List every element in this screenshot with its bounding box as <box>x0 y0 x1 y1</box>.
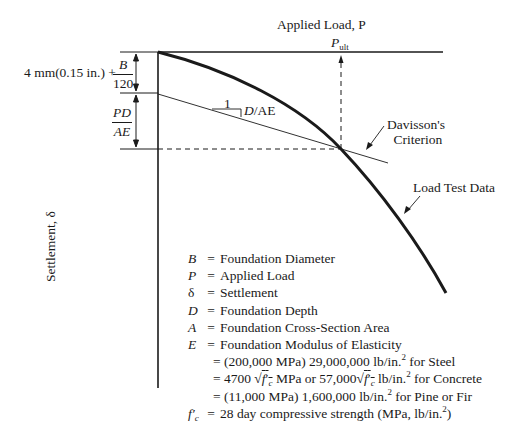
legend-eq: = <box>202 302 220 319</box>
legend-symbol: P <box>188 267 202 284</box>
modulus-concrete-unit: lb/in. <box>375 371 407 386</box>
slope-rise-text: 1 <box>224 96 231 111</box>
legend-symbol: δ <box>188 284 202 301</box>
legend-text: Settlement <box>220 285 278 300</box>
fc-definition: f′c=28 day compressive strength (MPa, lb… <box>188 405 482 422</box>
legend-row-a: A=Foundation Cross-Section Area <box>188 319 482 336</box>
modulus-steel: = (200,000 MPa) 29,000,000 lb/in.2 for S… <box>188 353 482 370</box>
modulus-steel-suffix: for Steel <box>406 354 456 369</box>
fc-symbol: f′c <box>364 371 375 386</box>
modulus-pine-text: = (11,000 MPa) 1,600,000 lb/in. <box>213 389 387 404</box>
legend-symbol: D <box>188 302 202 319</box>
legend-row-d: D=Foundation Depth <box>188 302 482 319</box>
fc-symbol: f′c <box>188 405 202 422</box>
modulus-concrete-text: = 4700 √ <box>213 371 262 386</box>
davisson-label-line1: Davisson's <box>387 117 445 132</box>
p-ult-subscript: ult <box>339 42 349 52</box>
legend-eq: = <box>202 267 220 284</box>
offset-fraction: B 120 <box>113 58 133 90</box>
p-ult-symbol: P <box>331 35 339 50</box>
modulus-concrete-suffix: for Concrete <box>411 371 482 386</box>
legend-row-p: P=Applied Load <box>188 267 482 284</box>
slope-run-rest: /AE <box>254 103 276 118</box>
legend-symbol: E <box>188 336 202 353</box>
fc-definition-close: ) <box>447 406 452 421</box>
offset-label-text: 4 mm(0.15 in.) + <box>24 65 116 80</box>
fc-sub: c <box>195 413 199 423</box>
y-axis-label-text: Settlement, δ <box>43 211 58 282</box>
legend-row-b: B=Foundation Diameter <box>188 250 482 267</box>
legend-symbol: A <box>188 319 202 336</box>
legend-symbol: B <box>188 250 202 267</box>
x-axis-label-text: Applied Load, P <box>277 17 366 32</box>
elastic-fraction: PD AE <box>112 106 132 138</box>
offset-fraction-denominator: 120 <box>113 75 133 91</box>
fc-symbol: f′c <box>262 371 273 386</box>
modulus-concrete-mid: MPa or 57,000√ <box>273 371 364 386</box>
legend-text: Foundation Diameter <box>220 251 335 266</box>
legend-text: Foundation Cross-Section Area <box>220 320 389 335</box>
legend-eq: = <box>202 336 220 353</box>
davisson-label-line2: Criterion <box>390 132 443 147</box>
davisson-label: Davisson's Criterion <box>387 117 445 147</box>
modulus-concrete: = 4700 √f′c MPa or 57,000√f′c lb/in.2 fo… <box>188 370 482 387</box>
dimension-arrows <box>134 54 139 147</box>
offset-fraction-numerator: B <box>113 58 133 75</box>
y-axis-label: Settlement, δ <box>43 211 59 282</box>
legend-eq: = <box>202 405 220 422</box>
legend-text: Foundation Depth <box>220 303 318 318</box>
legend-eq: = <box>202 250 220 267</box>
load-test-label: Load Test Data <box>413 181 495 195</box>
legend: B=Foundation Diameter P=Applied Load δ=S… <box>188 250 482 422</box>
legend-eq: = <box>202 284 220 301</box>
elastic-fraction-denominator: AE <box>112 123 132 139</box>
elastic-fraction-numerator: PD <box>112 106 132 123</box>
legend-row-delta: δ=Settlement <box>188 284 482 301</box>
modulus-steel-text: = (200,000 MPa) 29,000,000 lb/in. <box>213 354 401 369</box>
fc-definition-text: 28 day compressive strength (MPa, lb/in. <box>220 406 442 421</box>
slope-rise-label: 1 <box>224 97 231 111</box>
slope-run-label: D/AE <box>244 104 276 118</box>
modulus-pine: = (11,000 MPa) 1,600,000 lb/in.2 for Pin… <box>188 388 482 405</box>
offset-label: 4 mm(0.15 in.) + <box>24 66 116 80</box>
x-axis-label: Applied Load, P <box>277 18 366 32</box>
legend-eq: = <box>202 319 220 336</box>
load-test-label-text: Load Test Data <box>413 180 495 195</box>
slope-run-d: D <box>244 103 254 118</box>
legend-row-e: E=Foundation Modulus of Elasticity <box>188 336 482 353</box>
p-ult-label: Pult <box>331 36 349 50</box>
legend-text: Foundation Modulus of Elasticity <box>220 337 402 352</box>
legend-text: Applied Load <box>220 268 295 283</box>
modulus-pine-suffix: for Pine or Fir <box>392 389 472 404</box>
